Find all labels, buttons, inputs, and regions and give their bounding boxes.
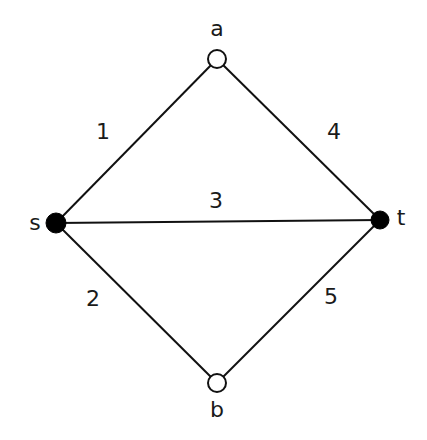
node-label-a: a xyxy=(210,16,223,41)
edges-layer xyxy=(56,59,380,383)
edge-s-b xyxy=(56,223,217,383)
node-label-b: b xyxy=(210,397,224,422)
graph-svg: 14325 astb xyxy=(0,0,427,440)
edge-weight-s-a: 1 xyxy=(96,119,110,144)
edge-s-a xyxy=(56,59,217,223)
graph-diagram: 14325 astb xyxy=(0,0,427,440)
node-a-open-circle-icon xyxy=(208,50,226,68)
node-t-filled-circle-icon xyxy=(371,211,389,229)
edge-b-t xyxy=(217,220,380,383)
node-b-open-circle-icon xyxy=(208,374,226,392)
node-label-s: s xyxy=(29,210,40,235)
edge-weight-a-t: 4 xyxy=(327,119,341,144)
edge-weight-s-b: 2 xyxy=(86,286,100,311)
edge-weight-s-t: 3 xyxy=(209,188,223,213)
edge-s-t xyxy=(56,220,380,223)
edge-weight-b-t: 5 xyxy=(324,284,338,309)
edge-labels-layer: 14325 xyxy=(86,119,341,311)
node-label-t: t xyxy=(397,205,406,230)
edge-a-t xyxy=(217,59,380,220)
node-s-filled-circle-icon xyxy=(46,213,66,233)
node-labels-layer: astb xyxy=(29,16,405,422)
